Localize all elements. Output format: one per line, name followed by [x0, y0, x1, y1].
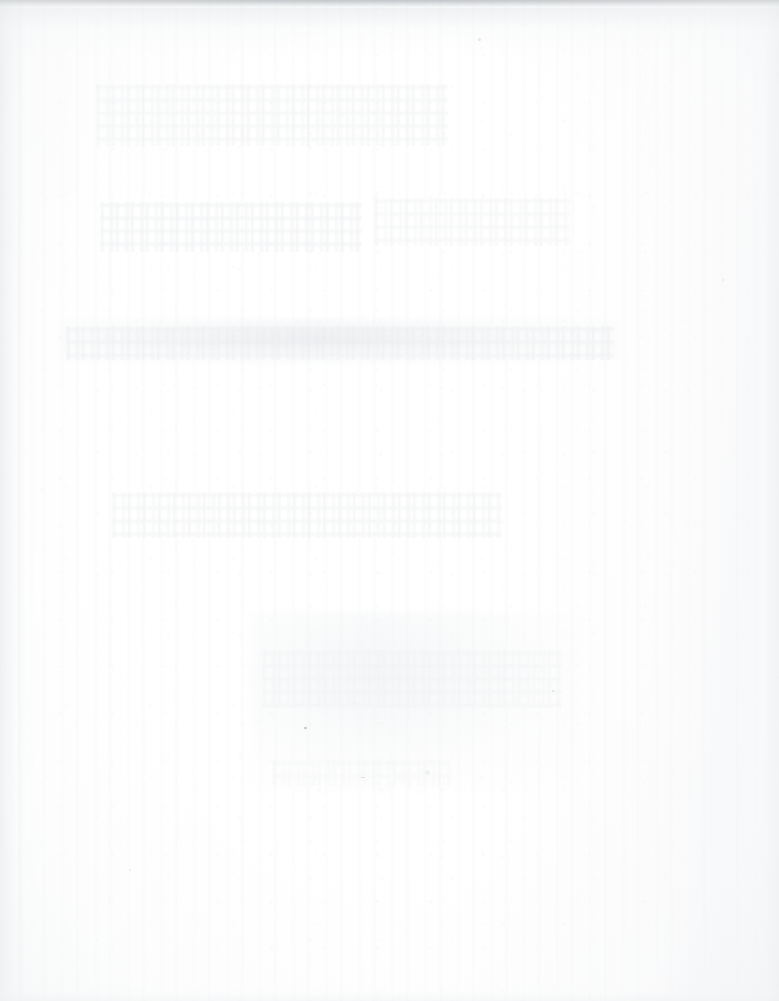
- show-through-band: [100, 202, 362, 252]
- left-edge-shadow: [0, 0, 22, 1001]
- scanned-page: [0, 0, 779, 1001]
- right-edge-shadow: [753, 0, 779, 1001]
- show-through-band: [112, 492, 502, 538]
- dust-speck: [722, 279, 724, 281]
- smudge-artifact: [60, 318, 620, 364]
- show-through-band: [374, 198, 570, 246]
- dust-speck: [552, 690, 554, 692]
- show-through-band: [96, 84, 448, 146]
- top-edge-band: [0, 0, 779, 10]
- dust-speck: [361, 777, 365, 778]
- smudge-artifact: [250, 612, 580, 792]
- top-edge-falloff: [0, 8, 779, 54]
- bottom-edge-band: [0, 987, 779, 1001]
- dust-speck: [129, 869, 131, 871]
- dust-speck: [425, 771, 430, 774]
- dust-speck: [304, 727, 307, 729]
